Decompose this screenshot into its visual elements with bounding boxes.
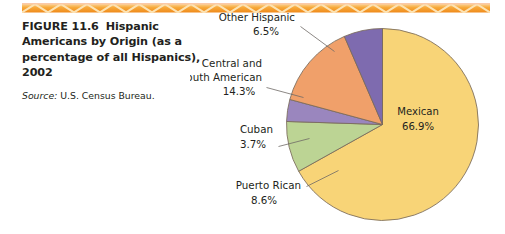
slice-label-other-hispanic: Other Hispanic (219, 11, 296, 23)
slice-label-central-south-american-line1: Central and (202, 57, 262, 69)
slice-label-mexican: Mexican (397, 106, 439, 117)
slice-value-puerto-rican: 8.6% (251, 194, 277, 206)
pie-slices (287, 29, 479, 221)
slice-value-cuban: 3.7% (240, 138, 266, 150)
pie-chart: Other Hispanic 6.5% Central and South Am… (190, 4, 505, 234)
slice-value-mexican: 66.9% (402, 121, 434, 132)
figure-caption: FIGURE 11.6Hispanic Americans by Origin … (22, 19, 204, 81)
slice-label-puerto-rican: Puerto Rican (236, 179, 301, 191)
source-key: Source: (22, 90, 57, 101)
slice-label-cuban: Cuban (240, 123, 273, 135)
pie-chart-svg: Other Hispanic 6.5% Central and South Am… (190, 4, 505, 234)
leader-line-other-hispanic (301, 27, 335, 52)
figure-container: FIGURE 11.6Hispanic Americans by Origin … (0, 0, 505, 234)
slice-value-central-south-american: 14.3% (223, 85, 256, 97)
source-value: U.S. Census Bureau. (60, 90, 154, 101)
source-line: Source: U.S. Census Bureau. (22, 90, 204, 102)
slice-label-central-south-american-line2: South American (190, 71, 262, 83)
figure-label: FIGURE 11.6 (22, 20, 99, 33)
slice-value-other-hispanic: 6.5% (253, 25, 279, 37)
caption-block: FIGURE 11.6Hispanic Americans by Origin … (22, 19, 204, 102)
